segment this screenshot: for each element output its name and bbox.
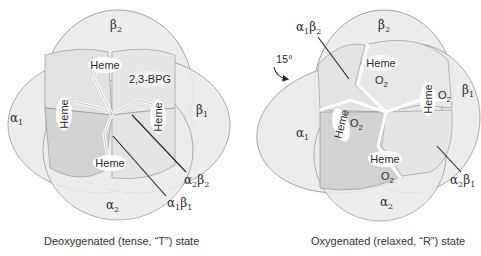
deoxy-bpg-label: 2,3-BPG: [129, 73, 171, 85]
deoxy-a1b1-label: α1β1: [167, 196, 192, 212]
deoxy-heme-left-label: Heme: [58, 99, 70, 128]
hemoglobin-diagram: Heme Heme Heme Heme 2,3-BPG β2 α1 β1 α2 …: [0, 0, 481, 256]
deoxy-a2b2-label: α2β2: [184, 173, 209, 189]
oxy-heme-right-label: Heme: [422, 84, 434, 113]
deoxy-heme-bottom-label: Heme: [95, 157, 124, 169]
oxy-heme-top-label: Heme: [366, 57, 395, 69]
deoxy-heme-right-label: Heme: [152, 102, 164, 131]
oxy-panel: Heme O2 Heme O2 Heme O2 Heme O2 β2 β1 α1…: [246, 10, 480, 247]
oxy-heme-bottom-label: Heme: [370, 153, 399, 165]
rotation-arrow-icon: [274, 67, 287, 79]
deoxy-caption: Deoxygenated (tense, “T”) state: [44, 235, 199, 247]
oxy-rotation-label: 15°: [276, 53, 293, 65]
oxy-a1b2-label: α1β2: [296, 20, 321, 36]
deoxy-panel: Heme Heme Heme Heme 2,3-BPG β2 α1 β1 α2 …: [8, 10, 230, 247]
oxy-a2b1-label: α2β1: [450, 173, 475, 189]
deoxy-heme-top-label: Heme: [90, 59, 119, 71]
oxy-caption: Oxygenated (relaxed, “R”) state: [311, 235, 465, 247]
